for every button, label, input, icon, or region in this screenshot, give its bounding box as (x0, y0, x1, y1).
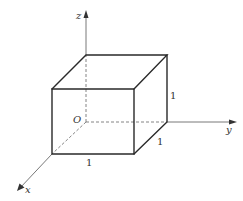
edge-length-label-front-bottom: 1 (86, 157, 92, 168)
x-axis (20, 154, 52, 188)
z-axis-label: z (75, 10, 82, 21)
hidden-edge-x (52, 122, 86, 154)
origin-label: O (73, 114, 81, 125)
unit-cube-diagram: z y x O 1 1 1 (0, 0, 243, 201)
cube-top-face (52, 55, 167, 89)
x-axis-label: x (25, 184, 31, 195)
edge-length-label-right-vertical: 1 (170, 90, 176, 101)
z-axis-arrow-icon (84, 10, 89, 18)
y-axis-label: y (225, 124, 232, 135)
cube-front-face (52, 89, 134, 154)
edge-length-label-right-bottom: 1 (157, 136, 163, 147)
